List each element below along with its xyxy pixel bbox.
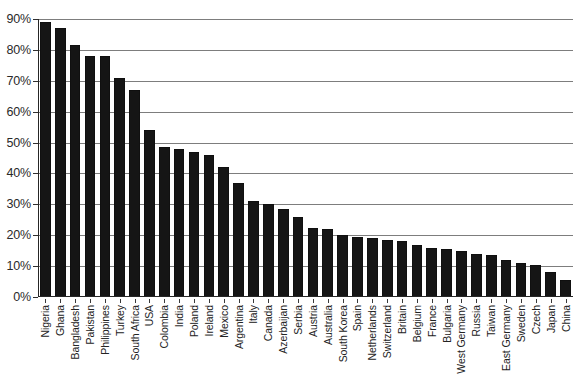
x-axis-tick-mark [90,299,91,303]
x-axis-tick-mark [447,299,448,303]
x-axis-tick-mark [135,299,136,303]
plot-area [38,19,573,297]
x-axis-tick: South Korea [335,299,350,392]
y-axis-tick-label: 70% [7,74,31,88]
bar-slot [216,19,231,297]
x-axis-tick: Japan [543,299,558,392]
bar [278,209,289,297]
bar [174,149,185,297]
y-axis-tick-label: 30% [7,197,31,211]
x-axis-tick-mark [224,299,225,303]
x-axis-tick-mark [521,299,522,303]
x-axis-tick-label: Ireland [204,305,215,336]
x-axis-tick: China [558,299,573,392]
bar [293,217,304,297]
bar-slot [38,19,53,297]
x-axis-tick: Poland [187,299,202,392]
bar-slot [484,19,499,297]
bar [486,255,497,297]
bar-slot [380,19,395,297]
x-axis-tick-mark [45,299,46,303]
x-axis-tick-mark [357,299,358,303]
x-axis-tick: Austria [305,299,320,392]
x-axis-tick-label: Canada [263,305,274,341]
bar [322,229,333,297]
bar [441,249,452,297]
bar [412,245,423,298]
y-axis-tick-mark [33,297,38,298]
x-axis-tick-label: Belgium [412,305,423,342]
x-axis-tick-label: Taiwan [486,305,497,337]
bar-slot [350,19,365,297]
y-axis-tick-label: 80% [7,43,31,57]
bar [397,241,408,297]
bar [471,254,482,297]
x-axis-tick-mark [506,299,507,303]
bar-slot [543,19,558,297]
x-axis-tick: Italy [246,299,261,392]
x-axis-tick: Mexico [216,299,231,392]
x-axis-tick: Azerbaijan [276,299,291,392]
x-axis-tick-label: Pakistan [85,305,96,344]
x-axis-tick: Ghana [53,299,68,392]
y-axis-tick-label: 50% [7,136,31,150]
x-axis-tick: Taiwan [484,299,499,392]
x-axis-tick-label: Ghana [55,305,66,336]
bar [233,183,244,297]
bar-slot [291,19,306,297]
x-axis-tick-mark [313,299,314,303]
bar [501,260,512,297]
bar-slot [514,19,529,297]
x-axis-tick: Ireland [201,299,216,392]
x-axis-tick-label: Japan [545,305,556,333]
bar [352,237,363,297]
x-axis-tick-label: China [560,305,571,332]
bar [159,147,170,297]
bar [189,152,200,297]
x-axis-tick-label: Poland [189,305,200,337]
x-axis-tick-mark [491,299,492,303]
bar [204,155,215,297]
bar-slot [83,19,98,297]
x-axis-tick: USA [142,299,157,392]
x-axis-tick: Philippines [97,299,112,392]
y-axis-tick-label: 90% [7,12,31,26]
bar [530,265,541,297]
x-axis-tick: Britain [395,299,410,392]
bar-slot [201,19,216,297]
x-axis-tick-mark [387,299,388,303]
bar [560,280,571,297]
x-axis-tick-mark [194,299,195,303]
x-axis-tick: Bulgaria [439,299,454,392]
bar [144,130,155,297]
x-axis-tick-label: Italy [248,305,259,324]
x-axis-tick-label: Russia [471,305,482,337]
bar [337,235,348,297]
x-axis-tick-mark [283,299,284,303]
bar-slot [320,19,335,297]
x-axis-tick-mark [476,299,477,303]
bar-slot [53,19,68,297]
bar-slot [558,19,573,297]
x-axis-tick-mark [298,299,299,303]
bar [218,167,229,297]
bar-slot [157,19,172,297]
x-axis-tick: Serbia [291,299,306,392]
bar [70,45,81,297]
y-axis-tick-label: 40% [7,166,31,180]
x-axis-tick-label: Spain [352,305,363,331]
x-axis-tick: East Germany [499,299,514,392]
x-axis-tick-label: East Germany [501,305,512,371]
x-axis-tick-mark [75,299,76,303]
x-axis-tick: France [424,299,439,392]
bar-slot [261,19,276,297]
x-axis-tick-label: Switzerland [382,305,393,358]
bar-slot [499,19,514,297]
bar-slot [469,19,484,297]
x-axis-tick-label: Serbia [293,305,304,335]
x-axis-tick: Canada [261,299,276,392]
bar-slot [305,19,320,297]
x-axis-tick-label: Czech [531,305,542,334]
x-axis-tick: Russia [469,299,484,392]
x-axis-tick-label: West Germany [456,305,467,374]
